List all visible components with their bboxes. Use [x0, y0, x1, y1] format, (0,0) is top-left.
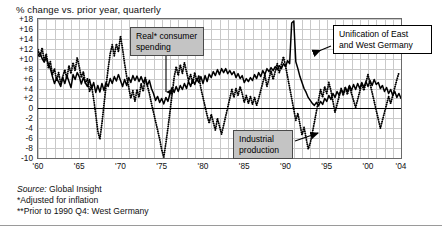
- x-tick-label: '95: [321, 161, 332, 171]
- y-tick-label: +2: [24, 94, 33, 102]
- x-tick-label: '75: [156, 161, 167, 171]
- y-axis-labels: +18+16+14+12+10+8+6+4+20-2-4-6-8-10: [0, 18, 35, 159]
- y-tick-label: +6: [24, 75, 33, 83]
- callout-unification: Unification of East and West Germany: [333, 25, 432, 54]
- x-tick-label: '04: [396, 161, 407, 171]
- source-line: Source: Global Insight: [17, 184, 149, 195]
- bottom-divider: [0, 225, 442, 226]
- footnote-adjusted: *Adjusted for inflation: [17, 195, 149, 206]
- source-label: Source:: [17, 184, 47, 194]
- y-tick-label: -8: [26, 144, 33, 152]
- gridline-horizontal: [38, 158, 401, 159]
- footnotes: Source: Global Insight *Adjusted for inf…: [17, 184, 149, 218]
- series-line-industrial-production: [38, 36, 399, 157]
- x-tick-label: '80: [198, 161, 209, 171]
- y-tick-label: +12: [19, 45, 33, 53]
- source-value: Global Insight: [47, 184, 102, 194]
- y-tick-label: -4: [26, 124, 33, 132]
- x-tick-label: '90: [280, 161, 291, 171]
- y-tick-label: -10: [21, 154, 33, 162]
- y-tick-label: +10: [19, 55, 33, 63]
- y-tick-label: -2: [26, 114, 33, 122]
- callout-industrial-production: Industrial production: [233, 130, 293, 159]
- x-tick-label: '70: [115, 161, 126, 171]
- chart-root: % change vs. prior year, quarterly +18+1…: [0, 0, 442, 234]
- x-tick-label: '00: [363, 161, 374, 171]
- y-tick-label: +14: [19, 35, 33, 43]
- y-tick-label: +8: [24, 65, 33, 73]
- x-axis-labels: '60'65'70'75'80'85'90'95'00'04: [37, 161, 402, 175]
- x-tick-label: '65: [74, 161, 85, 171]
- x-tick-label: '60: [33, 161, 44, 171]
- footnote-west-germany: **Prior to 1990 Q4: West Germany: [17, 206, 149, 217]
- y-tick-label: +4: [24, 85, 33, 93]
- y-tick-label: +18: [19, 15, 33, 23]
- callout-consumer-spending: Real* consumer spending: [130, 27, 204, 56]
- y-tick-label: -6: [26, 134, 33, 142]
- x-tick-label: '85: [239, 161, 250, 171]
- chart-title: % change vs. prior year, quarterly: [16, 4, 161, 15]
- y-tick-label: +16: [19, 25, 33, 33]
- y-tick-label: 0: [28, 104, 33, 112]
